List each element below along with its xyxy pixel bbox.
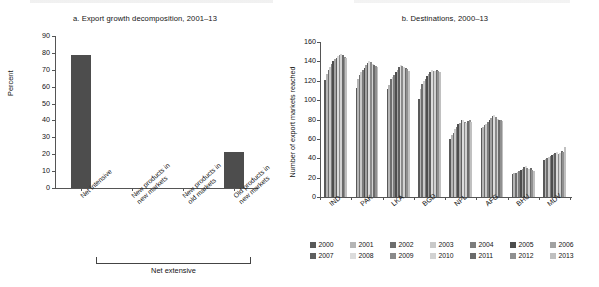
panel-b-x-tick-mark — [414, 197, 415, 200]
panel-b-x-axis-line — [320, 197, 572, 198]
panel-b-bar — [408, 71, 410, 197]
panel-a-bar — [71, 55, 91, 188]
panel-b-bar — [502, 121, 504, 197]
panel-b-bar-group — [324, 42, 347, 197]
legend-item-2005[interactable]: 2005 — [510, 242, 550, 249]
panel-b-bar-group — [449, 42, 472, 197]
panel-a-y-tick: 90 — [28, 32, 50, 39]
legend-row: 2000200120022003200420052006 — [310, 240, 590, 251]
legend-label: 2009 — [399, 253, 414, 260]
panel-a-y-tick: 50 — [28, 100, 50, 107]
panel-b-bar-group — [418, 42, 441, 197]
net-extensive-bracket — [96, 257, 251, 264]
legend-label: 2001 — [359, 242, 374, 249]
panel-a-title: a. Export growth decomposition, 2001–13 — [15, 14, 275, 23]
legend-label: 2005 — [519, 242, 534, 249]
legend-label: 2010 — [439, 253, 454, 260]
panel-b-bar — [533, 171, 535, 197]
panel-b-x-tick-mark — [539, 197, 540, 200]
panel-b-bar-group — [543, 42, 566, 197]
legend-label: 2008 — [359, 253, 374, 260]
legend-swatch-icon — [350, 242, 356, 248]
panel-b-x-tick-mark — [351, 197, 352, 200]
panel-b-y-tick: 20 — [294, 174, 316, 181]
panel-a-y-tick-mark — [52, 188, 55, 189]
legend-label: 2004 — [479, 242, 494, 249]
panel-b-y-tick: 160 — [294, 38, 316, 45]
legend-item-2002[interactable]: 2002 — [390, 242, 430, 249]
legend-item-2000[interactable]: 2000 — [310, 242, 350, 249]
panel-b-plot-area — [320, 42, 570, 197]
legend-swatch-icon — [310, 253, 316, 259]
legend-label: 2011 — [479, 253, 494, 260]
panel-a-y-tick: 70 — [28, 66, 50, 73]
panel-b-bar — [345, 58, 347, 197]
panel-b-bar-group — [387, 42, 410, 197]
panel-a-y-tick: 60 — [28, 83, 50, 90]
legend-item-2012[interactable]: 2012 — [510, 253, 550, 260]
legend-swatch-icon — [430, 253, 436, 259]
panel-b-y-tick: 140 — [294, 57, 316, 64]
panel-a-plot-area — [55, 36, 260, 188]
panel-b-y-tick: 40 — [294, 154, 316, 161]
legend-item-2004[interactable]: 2004 — [470, 242, 510, 249]
legend-swatch-icon — [470, 242, 476, 248]
legend-item-2006[interactable]: 2006 — [550, 242, 590, 249]
legend-label: 2002 — [399, 242, 414, 249]
legend-label: 2012 — [519, 253, 534, 260]
panel-b-y-tick: 120 — [294, 77, 316, 84]
legend-swatch-icon — [310, 242, 316, 248]
legend-swatch-icon — [510, 253, 516, 259]
legend-swatch-icon — [510, 242, 516, 248]
legend-label: 2013 — [559, 253, 574, 260]
panel-a-export-growth-decomposition: a. Export growth decomposition, 2001–13 … — [0, 0, 290, 287]
panel-b-x-tick-mark — [320, 197, 321, 200]
legend-swatch-icon — [390, 253, 396, 259]
legend-label: 2000 — [319, 242, 334, 249]
panel-b-bar — [470, 122, 472, 197]
legend-label: 2006 — [559, 242, 574, 249]
panel-b-x-tick-mark — [476, 197, 477, 200]
legend-item-2003[interactable]: 2003 — [430, 242, 470, 249]
panel-a-y-axis-label: Percent — [6, 71, 15, 96]
panel-b-bar-group — [356, 42, 379, 197]
panel-b-title: b. Destinations, 2000–13 — [315, 14, 575, 23]
panel-b-bar — [564, 147, 566, 197]
panel-b-x-tick-mark — [383, 197, 384, 200]
legend-swatch-icon — [430, 242, 436, 248]
legend-item-2011[interactable]: 2011 — [470, 253, 510, 260]
panel-b-y-tick: 0 — [294, 193, 316, 200]
panel-b-bar-group — [512, 42, 535, 197]
legend-label: 2007 — [319, 253, 334, 260]
figure-canvas: a. Export growth decomposition, 2001–13 … — [0, 0, 599, 287]
panel-b-y-tick: 100 — [294, 96, 316, 103]
panel-a-y-tick: 0 — [28, 184, 50, 191]
panel-b-x-tick-mark — [445, 197, 446, 200]
legend-swatch-icon — [350, 253, 356, 259]
panel-a-y-tick: 20 — [28, 150, 50, 157]
legend-item-2010[interactable]: 2010 — [430, 253, 470, 260]
panel-b-bar — [439, 72, 441, 197]
panel-b-x-tick-mark — [508, 197, 509, 200]
panel-a-bar — [224, 152, 244, 188]
legend-swatch-icon — [550, 242, 556, 248]
legend-item-2001[interactable]: 2001 — [350, 242, 390, 249]
panel-b-y-tick: 80 — [294, 116, 316, 123]
legend-item-2008[interactable]: 2008 — [350, 253, 390, 260]
legend-swatch-icon — [550, 253, 556, 259]
panel-b-bar-group — [481, 42, 504, 197]
panel-b-bar — [377, 67, 379, 197]
panel-a-y-tick: 10 — [28, 167, 50, 174]
legend-item-2013[interactable]: 2013 — [550, 253, 590, 260]
panel-b-y-tick: 60 — [294, 135, 316, 142]
legend-label: 2003 — [439, 242, 454, 249]
panel-a-y-tick: 40 — [28, 116, 50, 123]
panel-a-y-tick: 30 — [28, 133, 50, 140]
legend-item-2007[interactable]: 2007 — [310, 253, 350, 260]
net-extensive-bracket-label: Net extensive — [96, 266, 251, 275]
year-legend: 2000200120022003200420052006200720082009… — [310, 240, 590, 262]
legend-row: 2007200820092010201120122013 — [310, 251, 590, 262]
legend-item-2009[interactable]: 2009 — [390, 253, 430, 260]
legend-swatch-icon — [470, 253, 476, 259]
panel-b-x-tick-mark — [570, 197, 571, 200]
